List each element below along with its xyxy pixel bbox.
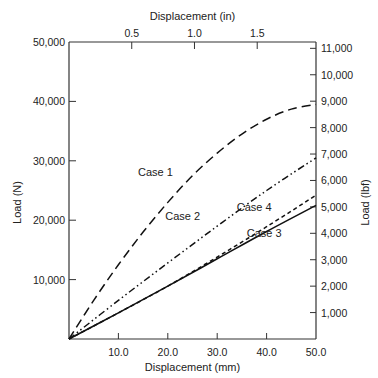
load-displacement-chart: 10.020.030.040.050.010,00020,00030,00040… <box>0 0 378 378</box>
y-tick-label: 40,000 <box>33 95 65 107</box>
annotation-case-4: Case 4 <box>237 201 272 213</box>
x-tick-label: 50.0 <box>306 346 327 358</box>
y-tick-label: 50,000 <box>33 36 65 48</box>
y-tick-label: 10,000 <box>33 274 65 286</box>
annotation-case-2: Case 2 <box>165 210 200 222</box>
series-case-2 <box>69 158 316 339</box>
x-axis-title: Displacement (mm) <box>145 361 240 373</box>
x2-axis-title: Displacement (in) <box>150 10 236 22</box>
y2-tick-label: 10,000 <box>321 69 353 81</box>
x-tick-label: 20.0 <box>158 346 179 358</box>
y2-tick-label: 4,000 <box>321 227 347 239</box>
x-tick-label: 30.0 <box>207 346 228 358</box>
plot-frame: 10.020.030.040.050.010,00020,00030,00040… <box>33 27 353 358</box>
y2-tick-label: 3,000 <box>321 254 347 266</box>
y2-tick-label: 11,000 <box>321 42 352 54</box>
y2-tick-label: 1,000 <box>321 307 347 319</box>
y-tick-label: 20,000 <box>33 214 65 226</box>
x2-tick-label: 1.0 <box>187 27 202 39</box>
x2-tick-label: 1.5 <box>250 27 265 39</box>
x-tick-label: 10.0 <box>108 346 129 358</box>
y2-tick-label: 8,000 <box>321 122 347 134</box>
x2-tick-label: 0.5 <box>124 27 139 39</box>
y2-tick-label: 6,000 <box>321 174 347 186</box>
y-axis-title: Load (N) <box>11 181 23 224</box>
labels-group: Displacement (mm)Displacement (in)Load (… <box>11 10 371 373</box>
y2-tick-label: 5,000 <box>321 201 347 213</box>
annotation-case-3: Case 3 <box>247 227 282 239</box>
x-tick-label: 40.0 <box>256 346 277 358</box>
y-tick-label: 30,000 <box>33 155 65 167</box>
y2-tick-label: 2,000 <box>321 280 347 292</box>
y2-axis-title: Load (lbf) <box>359 179 371 225</box>
y2-tick-label: 9,000 <box>321 95 347 107</box>
annotation-case-1: Case 1 <box>138 166 173 178</box>
y2-tick-label: 7,000 <box>321 148 347 160</box>
